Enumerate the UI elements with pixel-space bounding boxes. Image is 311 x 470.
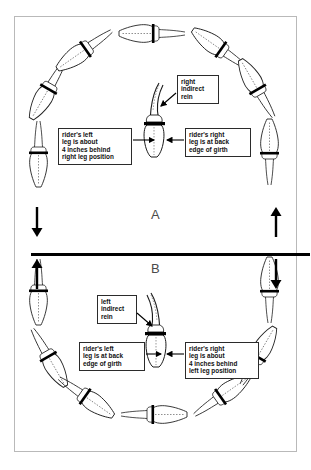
arrow-b-right-down xyxy=(269,259,283,289)
panel-b: left indirect rein rider's left leg is a… xyxy=(15,17,296,451)
arrow-b-left-up xyxy=(30,259,44,289)
figure-frame: right indirect rein rider's left leg is … xyxy=(14,16,297,452)
leader-b-rein xyxy=(15,17,298,453)
panel-b-letter: B xyxy=(151,261,160,276)
diagram-figure: right indirect rein rider's left leg is … xyxy=(0,0,311,470)
